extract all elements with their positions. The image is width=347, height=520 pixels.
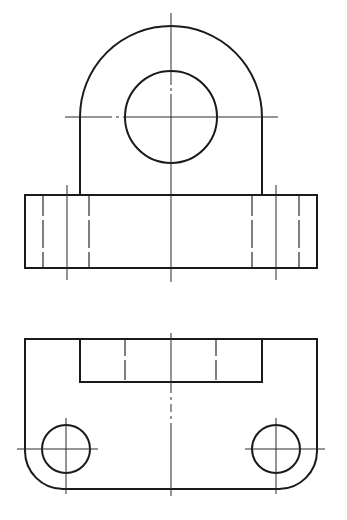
front-view (65, 13, 278, 282)
engineering-drawing (0, 0, 347, 520)
top-view (17, 333, 325, 496)
